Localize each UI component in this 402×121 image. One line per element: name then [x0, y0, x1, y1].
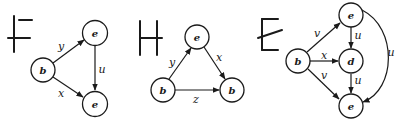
svg-text:b: b: [160, 85, 167, 96]
graph-h-node-b-left: b: [151, 78, 175, 102]
graph-e-node-b: b: [286, 49, 310, 73]
svg-text:e: e: [194, 32, 200, 43]
edge-label-x: x: [321, 49, 328, 62]
graph-e-node-d: d: [339, 49, 363, 73]
edge-label-y: y: [57, 40, 65, 53]
letter-f-glyph: [8, 16, 32, 52]
edge-label-u2: u: [354, 74, 361, 87]
edge-label-x: x: [216, 51, 223, 64]
graph-f-node-e-top: e: [83, 21, 108, 46]
graph-f-node-b: b: [31, 58, 55, 82]
graph-f-edges: y x u: [53, 40, 106, 100]
svg-text:e: e: [348, 101, 354, 112]
svg-text:b: b: [40, 65, 47, 76]
graph-f-node-e-bottom: e: [83, 92, 108, 117]
edge-label-v: v: [314, 27, 321, 40]
svg-text:b: b: [229, 85, 236, 96]
edge-label-y: y: [168, 56, 176, 69]
edge-label-u1: u: [354, 29, 361, 42]
graph-h-node-b-right: b: [220, 78, 244, 102]
diagram-canvas: y x u y x z v x v u u u b e e: [0, 0, 402, 121]
letter-h-glyph: [140, 21, 162, 55]
edge-e-e-u-curved: [362, 10, 388, 102]
letter-e-glyph: [258, 19, 282, 50]
edge-label-v2: v: [321, 69, 328, 82]
svg-text:d: d: [348, 56, 355, 67]
graph-h-edges: y x z: [168, 47, 225, 106]
edge-label-z: z: [192, 93, 199, 106]
svg-text:e: e: [92, 99, 98, 110]
edge-label-x: x: [58, 87, 65, 100]
graph-e-node-e-top: e: [339, 3, 363, 27]
svg-text:b: b: [295, 56, 302, 67]
edge-label-u3: u: [387, 46, 394, 59]
edge-label-u: u: [98, 63, 105, 76]
svg-text:e: e: [348, 10, 354, 21]
svg-text:e: e: [92, 28, 98, 39]
graph-e-node-e-bottom: e: [339, 94, 363, 118]
graph-h-node-e: e: [185, 25, 209, 49]
